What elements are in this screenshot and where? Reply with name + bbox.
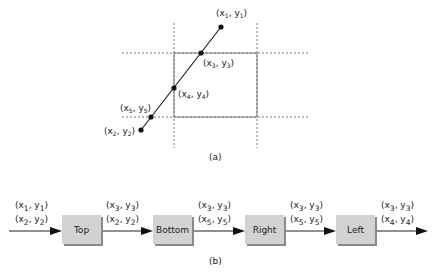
caption-b: (b) [209,256,222,266]
stage-left: Left [336,215,375,244]
line-segment [141,27,221,130]
point-label-p3: (x3, y3) [203,58,234,71]
stage-top: Top [62,215,101,244]
edge-label-3: (x3, y3)(x5, y5) [290,200,323,228]
stage-bottom: Bottom [153,215,192,244]
stage-label: Left [347,225,364,235]
point-label-p4: (x4, y4) [178,89,209,102]
point-label-p1: (x1, y1) [216,8,247,21]
stage-label: Right [253,225,277,235]
stage-label: Top [74,225,89,235]
point-label-p5: (x5, y5) [120,103,151,116]
clip-window-extended-lines [122,23,309,148]
stage-label: Bottom [156,225,189,235]
caption-a: (a) [209,152,222,162]
edge-label-1: (x3, y3)(x2, y2) [106,200,139,228]
edge-label-4: (x3, y3)(x4, y4) [381,200,414,228]
edge-label-2: (x3, y3)(x5, y5) [198,200,231,228]
edge-label-0: (x1, y1)(x2, y2) [15,200,48,228]
point-label-p2: (x2, y2) [104,126,135,139]
stage-right: Right [245,215,284,244]
